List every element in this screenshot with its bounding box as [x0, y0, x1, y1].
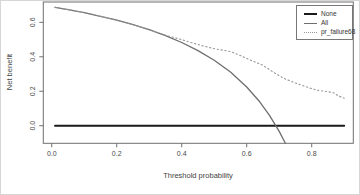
y-tick-label: 0.4	[29, 52, 36, 62]
x-tick-label: 0.8	[307, 150, 317, 157]
legend-label-none: None	[321, 11, 337, 18]
all-line-sample	[304, 23, 317, 24]
x-axis-title: Threshold probability	[43, 171, 353, 180]
decision-curve-figure: 0.00.20.40.60.80.00.20.40.6 Threshold pr…	[0, 0, 360, 195]
none-line-sample	[304, 13, 317, 15]
x-tick-label: 0.0	[47, 150, 57, 157]
y-tick-label: 0.6	[29, 17, 36, 27]
legend-entry-all: All	[304, 19, 352, 28]
legend-label-model: pr_failure68	[321, 29, 355, 36]
x-tick-label: 0.4	[177, 150, 187, 157]
x-tick-label: 0.2	[112, 150, 122, 157]
y-tick-label: 0.2	[29, 86, 36, 96]
legend: None All pr_failure68	[296, 5, 353, 40]
series-all-line	[55, 7, 285, 143]
y-axis-title: Net benefit	[5, 54, 14, 90]
legend-label-all: All	[321, 20, 328, 27]
y-tick-label: 0.0	[29, 121, 36, 131]
x-tick-label: 0.6	[242, 150, 252, 157]
model-line-sample	[304, 32, 317, 33]
legend-entry-none: None	[304, 10, 352, 19]
legend-entry-model: pr_failure68	[304, 28, 352, 37]
